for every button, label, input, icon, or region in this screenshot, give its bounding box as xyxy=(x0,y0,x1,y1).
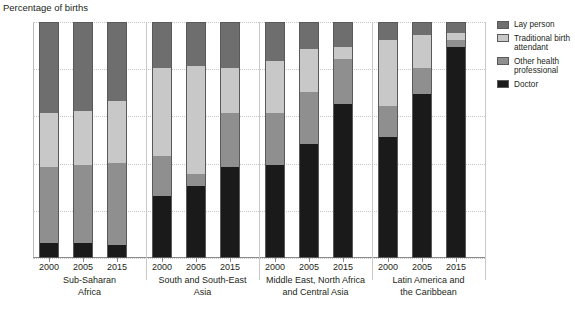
bar-group xyxy=(33,22,146,258)
x-axis-year-label: 2000 xyxy=(145,262,179,272)
legend: Lay personTraditional birth attendantOth… xyxy=(497,20,575,94)
x-axis-region-label: Middle East, North Africaand Central Asi… xyxy=(259,275,372,298)
bar-segment xyxy=(40,113,58,167)
stacked-bar[interactable] xyxy=(412,22,432,258)
bar-segment xyxy=(334,22,352,47)
stacked-bar[interactable] xyxy=(107,22,127,258)
bar-segment xyxy=(300,144,318,257)
x-axis-year-label: 2000 xyxy=(32,262,66,272)
bar-group xyxy=(372,22,485,258)
bar-segment xyxy=(187,174,205,186)
bar-segment xyxy=(334,104,352,257)
bar-segment xyxy=(187,186,205,257)
bar-segment xyxy=(221,68,239,113)
bar-segment xyxy=(334,59,352,104)
x-axis-year-label: 2000 xyxy=(371,262,405,272)
bar-segment xyxy=(108,245,126,257)
bar-segment xyxy=(300,22,318,49)
legend-item[interactable]: Traditional birth attendant xyxy=(497,34,575,53)
bar-segment xyxy=(221,167,239,257)
x-axis-year-label: 2000 xyxy=(258,262,292,272)
x-axis-year-label: 2015 xyxy=(326,262,360,272)
legend-item[interactable]: Doctor xyxy=(497,80,575,90)
bar-segment xyxy=(413,22,431,35)
bar-segment xyxy=(40,167,58,243)
x-axis-year-label: 2015 xyxy=(439,262,473,272)
bar-segment xyxy=(447,47,465,257)
bar-segment xyxy=(74,22,92,111)
bar-segment xyxy=(413,68,431,94)
x-axis-year-label: 2005 xyxy=(292,262,326,272)
stacked-bar[interactable] xyxy=(446,22,466,258)
bar-segment xyxy=(153,68,171,155)
legend-swatch xyxy=(497,34,509,42)
region-label-line: Latin America and xyxy=(372,275,485,287)
legend-label: Traditional birth attendant xyxy=(514,34,570,53)
bar-group xyxy=(146,22,259,258)
stacked-bar[interactable] xyxy=(152,22,172,258)
stacked-bar[interactable] xyxy=(299,22,319,258)
bar-segment xyxy=(447,33,465,40)
region-label-line: Middle East, North Africa xyxy=(259,275,372,287)
bar-segment xyxy=(153,156,171,196)
bar-segment xyxy=(221,113,239,167)
stacked-bar[interactable] xyxy=(39,22,59,258)
legend-item[interactable]: Lay person xyxy=(497,20,575,30)
bar-segment xyxy=(74,165,92,243)
legend-label: Doctor xyxy=(514,80,538,89)
bar-segment xyxy=(221,22,239,68)
region-label-line: and Central Asia xyxy=(259,287,372,299)
bar-segment xyxy=(187,22,205,66)
legend-swatch xyxy=(497,80,509,88)
stacked-bar[interactable] xyxy=(73,22,93,258)
bar-segment xyxy=(266,61,284,113)
stacked-bar[interactable] xyxy=(186,22,206,258)
stacked-bar[interactable] xyxy=(220,22,240,258)
x-axis-year-label: 2005 xyxy=(179,262,213,272)
bar-segment xyxy=(447,40,465,47)
bar-segment xyxy=(413,94,431,257)
x-axis-region-label: South and South-EastAsia xyxy=(146,275,259,298)
legend-label: Other health professional xyxy=(514,57,559,76)
bar-segment xyxy=(447,22,465,33)
bar-segment xyxy=(153,196,171,257)
legend-item[interactable]: Other health professional xyxy=(497,57,575,76)
region-label-line: Africa xyxy=(33,287,146,299)
bar-segment xyxy=(187,66,205,175)
bar-segment xyxy=(266,165,284,257)
bar-segment xyxy=(379,40,397,106)
region-label-line: the Caribbean xyxy=(372,287,485,299)
stacked-bar[interactable] xyxy=(265,22,285,258)
bar-segment xyxy=(108,22,126,101)
x-axis-year-label: 2005 xyxy=(66,262,100,272)
bar-segment xyxy=(379,106,397,137)
bar-segment xyxy=(40,22,58,113)
bar-segment xyxy=(300,92,318,144)
bar-segment xyxy=(266,22,284,61)
x-axis-year-label: 2015 xyxy=(100,262,134,272)
bar-segment xyxy=(334,47,352,59)
bar-segment xyxy=(153,22,171,68)
bar-segment xyxy=(413,35,431,68)
legend-swatch xyxy=(497,57,509,65)
bar-segment xyxy=(300,49,318,91)
stacked-bar[interactable] xyxy=(378,22,398,258)
region-label-line: Asia xyxy=(146,287,259,299)
bar-segment xyxy=(74,243,92,257)
x-axis-labels: 200020052015Sub-SaharanAfrica20002005201… xyxy=(0,262,575,310)
region-label-line: South and South-East xyxy=(146,275,259,287)
plot-right-edge xyxy=(485,22,486,280)
region-label-line: Sub-Saharan xyxy=(33,275,146,287)
stacked-bar[interactable] xyxy=(333,22,353,258)
bar-group xyxy=(259,22,372,258)
bar-segment xyxy=(108,101,126,162)
legend-label: Lay person xyxy=(514,20,555,29)
bar-segment xyxy=(379,22,397,40)
bar-segment xyxy=(379,137,397,257)
bar-segment xyxy=(266,113,284,165)
bar-segment xyxy=(74,111,92,165)
stacked-bar-chart: Percentage of births 020406080100 200020… xyxy=(0,0,575,310)
bar-groups xyxy=(33,22,485,258)
x-axis-region-label: Latin America andthe Caribbean xyxy=(372,275,485,298)
bar-segment xyxy=(108,163,126,246)
